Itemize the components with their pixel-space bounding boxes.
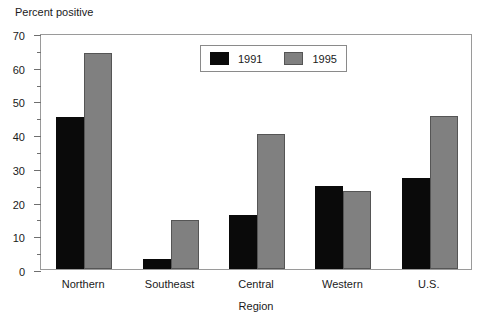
- legend-swatch-1991: [210, 52, 229, 65]
- y-tick-minor: [37, 254, 41, 255]
- bar-southeast-1991: [143, 259, 171, 269]
- y-tick-label: 50: [13, 97, 25, 109]
- y-tick-major: 10: [34, 237, 41, 238]
- legend-entry-1995: 1995: [284, 52, 336, 65]
- y-tick-major: 0: [34, 271, 41, 272]
- y-tick-major: 20: [34, 204, 41, 205]
- x-axis-label-western: Western: [322, 278, 363, 290]
- bar-northern-1991: [56, 117, 84, 269]
- y-axis-title: Percent positive: [15, 6, 93, 18]
- y-tick-major: 70: [34, 35, 41, 36]
- bar-southeast-1995: [171, 220, 199, 269]
- y-tick-label: 60: [13, 64, 25, 76]
- y-tick-minor: [37, 52, 41, 53]
- y-tick-minor: [37, 220, 41, 221]
- bar-western-1995: [343, 191, 371, 269]
- y-tick-major: 50: [34, 102, 41, 103]
- x-axis-label-u-s-: U.S.: [418, 278, 439, 290]
- y-tick-minor: [37, 119, 41, 120]
- y-tick-minor: [37, 153, 41, 154]
- y-tick-label: 20: [13, 199, 25, 211]
- chart-legend: 19911995: [200, 45, 347, 72]
- legend-entry-1991: 1991: [210, 52, 262, 65]
- x-axis-label-northern: Northern: [62, 278, 105, 290]
- y-tick-label: 70: [13, 30, 25, 42]
- y-tick-major: 30: [34, 170, 41, 171]
- y-tick-major: 60: [34, 69, 41, 70]
- y-tick-label: 30: [13, 165, 25, 177]
- y-tick-minor: [37, 187, 41, 188]
- x-axis-label-central: Central: [238, 278, 273, 290]
- y-tick-minor: [37, 86, 41, 87]
- bar-chart: Percent positive 010203040506070 Region …: [0, 0, 490, 326]
- bar-central-1991: [229, 215, 257, 269]
- x-axis-label-southeast: Southeast: [145, 278, 195, 290]
- legend-label-1995: 1995: [312, 53, 336, 65]
- y-tick-label: 0: [19, 266, 25, 278]
- x-axis-title: Region: [239, 300, 274, 312]
- bar-u-s--1995: [430, 116, 458, 269]
- y-tick-label: 40: [13, 131, 25, 143]
- legend-label-1991: 1991: [238, 53, 262, 65]
- y-tick-major: 40: [34, 136, 41, 137]
- legend-swatch-1995: [284, 52, 303, 65]
- bar-northern-1995: [84, 53, 112, 269]
- bar-western-1991: [315, 186, 343, 269]
- y-tick-label: 10: [13, 232, 25, 244]
- bar-central-1995: [257, 134, 285, 269]
- bar-u-s--1991: [402, 178, 430, 269]
